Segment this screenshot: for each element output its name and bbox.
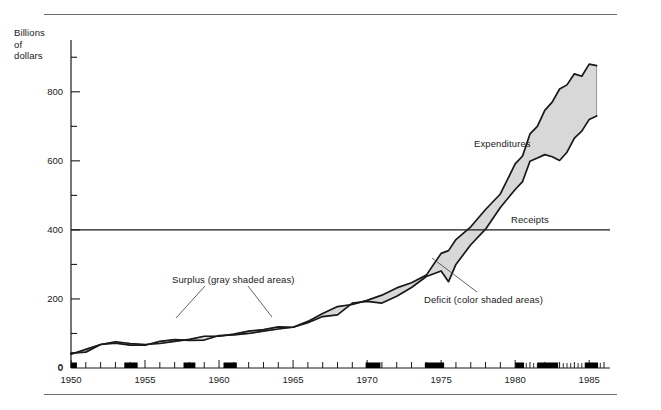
y-tick-label: 400 [35, 224, 63, 235]
recession-bars [71, 363, 598, 369]
y-tick-label: 200 [35, 293, 63, 304]
x-tick-label: 1950 [51, 374, 91, 385]
federal-receipts-expenditures-chart: Billions of dollars Surplus (gray shaded… [0, 0, 661, 410]
x-tick-label: 1975 [421, 374, 461, 385]
plot-area [0, 0, 661, 410]
y-tick-label: 800 [35, 86, 63, 97]
annotation-deficit: Deficit (color shaded areas) [424, 294, 543, 305]
y-tick-label: 600 [35, 155, 63, 166]
annotation-surplus: Surplus (gray shaded areas) [172, 274, 295, 285]
x-tick-label: 1965 [273, 374, 313, 385]
surplus-deficit-band [71, 64, 597, 354]
axes [71, 40, 610, 368]
annotation-expenditures: Expenditures [474, 138, 531, 149]
x-tick-label: 1960 [199, 374, 239, 385]
x-tick-label: 1955 [125, 374, 165, 385]
x-tick-label: 1980 [495, 374, 535, 385]
annotation-receipts: Receipts [511, 214, 549, 225]
y-origin-label: 0 [35, 361, 63, 372]
x-tick-label: 1970 [347, 374, 387, 385]
x-tick-label: 1985 [569, 374, 609, 385]
